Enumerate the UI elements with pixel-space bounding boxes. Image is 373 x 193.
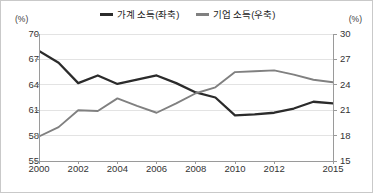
legend-item-household-income: 가계 소득(좌축) [100,10,180,20]
left-axis-unit-label: (%) [15,15,28,24]
x-axis-tick-2006: 2006 [137,164,177,174]
chart-figure: (%) (%) 가계 소득(좌축) 기업 소득(우축) 706764615855… [0,0,373,193]
x-axis-tick-2000: 2000 [19,164,59,174]
legend-swatch-corporate-income [196,13,209,16]
right-axis-tick-27: 27 [340,54,364,64]
legend-label-corporate-income: 기업 소득(우축) [213,10,276,20]
plot-area [39,34,333,161]
legend-label-household-income: 가계 소득(좌축) [117,10,180,20]
x-axis-tick-2008: 2008 [176,164,216,174]
right-axis-unit-label: (%) [349,15,362,24]
x-axis-tick-2004: 2004 [97,164,137,174]
left-axis-tick-67: 67 [15,54,39,64]
left-axis-tick-58: 58 [15,131,39,141]
left-axis-tick-64: 64 [15,80,39,90]
left-axis-tick-70: 70 [15,29,39,39]
x-axis-tick-2010: 2010 [215,164,255,174]
chart-svg [39,34,333,161]
x-axis-tick-2012: 2012 [254,164,294,174]
right-axis-tick-21: 21 [340,105,364,115]
series-line-household-income [39,51,333,115]
x-axis-tick-2002: 2002 [58,164,98,174]
legend-swatch-household-income [100,13,113,16]
right-axis-tick-24: 24 [340,80,364,90]
right-axis-tick-30: 30 [340,29,364,39]
right-axis-tick-18: 18 [340,131,364,141]
legend-item-corporate-income: 기업 소득(우축) [196,10,276,20]
left-axis-tick-61: 61 [15,105,39,115]
chart-legend: 가계 소득(좌축) 기업 소득(우축) [1,10,373,20]
series-lines [39,51,333,137]
x-axis-tick-2015: 2015 [313,164,353,174]
